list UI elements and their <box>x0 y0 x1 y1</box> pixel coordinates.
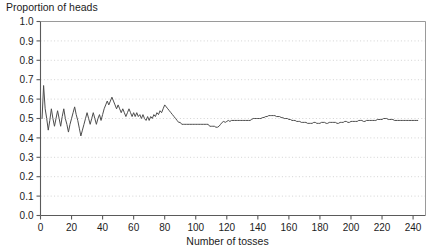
y-tick-label: 0.1 <box>20 191 34 202</box>
x-tick-label: 0 <box>38 222 44 233</box>
y-tick-label: 0.3 <box>20 152 34 163</box>
y-tick-label: 0.7 <box>20 74 34 85</box>
y-tick-label: 0.9 <box>20 36 34 47</box>
coin-toss-line-chart: 0.00.10.20.30.40.50.60.70.80.91.0 020406… <box>0 0 437 252</box>
y-tick-label: 1.0 <box>20 16 34 27</box>
y-tick-label: 0.5 <box>20 113 34 124</box>
y-tick-label: 0.6 <box>20 94 34 105</box>
x-tick-label: 80 <box>159 222 171 233</box>
gridlines <box>41 22 426 197</box>
x-tick-label: 40 <box>97 222 109 233</box>
x-tick-label: 160 <box>281 222 298 233</box>
x-tick-label: 100 <box>187 222 204 233</box>
y-tick-label: 0.4 <box>20 133 34 144</box>
x-tick-label: 180 <box>312 222 329 233</box>
x-axis-ticks: 020406080100120140160180200220240 <box>38 216 422 233</box>
y-tick-label: 0.2 <box>20 171 34 182</box>
x-tick-label: 240 <box>405 222 422 233</box>
chart-figure: Proportion of heads 0.00.10.20.30.40.50.… <box>0 0 437 252</box>
x-axis-title: Number of tosses <box>186 235 268 247</box>
x-tick-label: 120 <box>218 222 235 233</box>
y-tick-label: 0.8 <box>20 55 34 66</box>
y-tick-label: 0.0 <box>20 210 34 221</box>
x-tick-label: 200 <box>343 222 360 233</box>
proportion-of-heads-line <box>42 86 418 136</box>
x-tick-label: 20 <box>66 222 78 233</box>
y-axis-ticks: 0.00.10.20.30.40.50.60.70.80.91.0 <box>20 16 41 221</box>
x-tick-label: 60 <box>128 222 140 233</box>
x-tick-label: 140 <box>249 222 266 233</box>
x-tick-label: 220 <box>374 222 391 233</box>
x-axis-title-wrap: Number of tosses <box>0 235 437 247</box>
